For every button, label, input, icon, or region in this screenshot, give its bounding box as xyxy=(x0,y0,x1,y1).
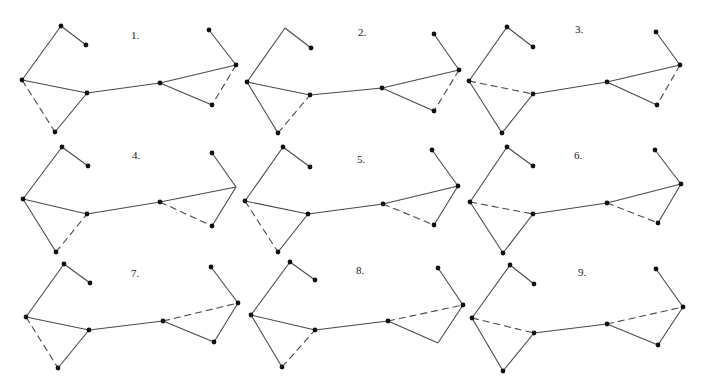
graph-node xyxy=(505,145,510,150)
graph-node xyxy=(532,282,537,287)
dashed-edge xyxy=(607,203,658,223)
graph-node xyxy=(532,331,537,336)
solid-edge xyxy=(251,262,290,315)
graph-node xyxy=(249,313,254,318)
panel-number-label: 9. xyxy=(578,267,586,278)
graph-node xyxy=(386,319,391,324)
graph-node xyxy=(432,32,437,37)
graph-node xyxy=(243,199,248,204)
solid-edge xyxy=(61,26,86,45)
solid-edge xyxy=(507,147,533,166)
solid-edge xyxy=(308,204,383,214)
solid-edge xyxy=(26,264,64,317)
graph-node xyxy=(432,223,437,228)
graph-node xyxy=(501,369,506,374)
graph-node xyxy=(84,43,89,48)
graph-node xyxy=(306,212,311,217)
solid-edge xyxy=(432,150,458,186)
solid-edge xyxy=(507,27,533,47)
graph-panel-4 xyxy=(21,145,236,255)
solid-edge xyxy=(382,70,459,88)
graph-node xyxy=(432,109,437,114)
graph-node xyxy=(209,265,214,270)
graph-node xyxy=(461,303,466,308)
figure-canvas xyxy=(0,0,706,391)
graph-node xyxy=(53,130,58,135)
dashed-edge xyxy=(388,305,463,321)
solid-edge xyxy=(285,28,311,48)
panel-number-label: 2. xyxy=(358,27,366,38)
panel-number-label: 8. xyxy=(356,265,364,276)
graph-node xyxy=(468,200,473,205)
solid-edge xyxy=(89,321,163,330)
graph-node xyxy=(430,148,435,153)
solid-edge xyxy=(656,269,683,307)
graph-panel-6 xyxy=(468,145,684,256)
graph-node xyxy=(313,278,318,283)
dashed-edge xyxy=(22,80,55,132)
panel-number-label: 5. xyxy=(357,154,365,165)
solid-edge xyxy=(607,65,680,82)
graph-node xyxy=(605,201,610,206)
solid-edge xyxy=(434,34,459,70)
solid-edge xyxy=(283,147,310,167)
graph-node xyxy=(21,197,26,202)
dashed-edge xyxy=(163,303,238,321)
graph-node xyxy=(679,182,684,187)
graph-node xyxy=(436,266,441,271)
graph-node xyxy=(245,80,250,85)
solid-edge xyxy=(470,147,507,202)
graph-node xyxy=(654,267,659,272)
solid-edge xyxy=(26,317,89,330)
graph-node xyxy=(308,93,313,98)
graph-node xyxy=(234,63,239,68)
graph-node xyxy=(158,200,163,205)
graph-node xyxy=(380,86,385,91)
graph-node xyxy=(653,148,658,153)
solid-edge xyxy=(472,265,510,318)
graph-node xyxy=(276,131,281,136)
solid-edge xyxy=(58,330,89,368)
graph-node xyxy=(655,103,660,108)
graph-node xyxy=(313,328,318,333)
solid-edge xyxy=(160,187,236,202)
solid-edge xyxy=(470,202,503,253)
graph-node xyxy=(280,365,285,370)
solid-edge xyxy=(438,268,463,305)
solid-edge xyxy=(656,32,680,65)
panel-number-label: 4. xyxy=(132,150,140,161)
graph-node xyxy=(87,328,92,333)
graph-node xyxy=(210,224,215,229)
graph-node xyxy=(678,63,683,68)
solid-edge xyxy=(87,83,160,93)
graph-node xyxy=(531,164,536,169)
dashed-edge xyxy=(278,95,310,133)
solid-edge xyxy=(251,315,282,367)
solid-edge xyxy=(310,88,382,95)
solid-edge xyxy=(534,324,607,333)
solid-edge xyxy=(434,186,458,225)
solid-edge xyxy=(247,82,278,133)
graph-node xyxy=(207,28,212,33)
graph-node xyxy=(656,343,661,348)
graph-node xyxy=(161,319,166,324)
graph-panel-1 xyxy=(20,24,239,135)
graph-node xyxy=(210,151,215,156)
solid-edge xyxy=(607,82,657,105)
graph-node xyxy=(605,80,610,85)
solid-edge xyxy=(658,184,681,223)
solid-edge xyxy=(469,27,507,81)
solid-edge xyxy=(503,214,533,253)
graph-node xyxy=(88,281,93,286)
solid-edge xyxy=(469,81,502,133)
solid-edge xyxy=(315,321,388,330)
graph-node xyxy=(654,30,659,35)
graph-node xyxy=(467,79,472,84)
solid-edge xyxy=(214,303,238,342)
graph-node xyxy=(54,250,59,255)
graph-panel-8 xyxy=(249,260,466,370)
solid-edge xyxy=(160,83,212,105)
solid-edge xyxy=(533,203,607,214)
dashed-edge xyxy=(434,70,459,111)
graph-node xyxy=(531,92,536,97)
